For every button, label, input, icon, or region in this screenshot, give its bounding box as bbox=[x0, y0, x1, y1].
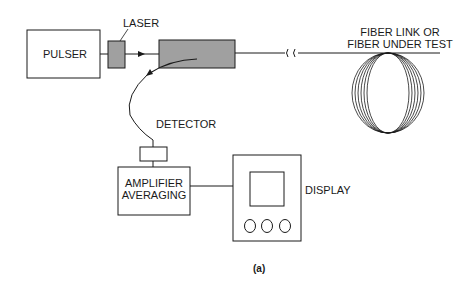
laser-box bbox=[108, 41, 125, 68]
break-icon bbox=[287, 49, 296, 57]
detector-fiber bbox=[129, 74, 153, 147]
detector-box bbox=[140, 147, 167, 161]
display-box bbox=[233, 155, 301, 241]
pulser-label: PULSER bbox=[43, 48, 87, 61]
detector-label: DETECTOR bbox=[156, 118, 216, 131]
knob-icon bbox=[262, 220, 273, 233]
figure-caption: (a) bbox=[253, 262, 265, 275]
knob-icon bbox=[280, 220, 291, 233]
laser-label: LASER bbox=[123, 17, 159, 30]
laser-leader-line bbox=[120, 29, 128, 41]
display-screen bbox=[250, 172, 284, 206]
arrow-icon bbox=[138, 51, 145, 57]
knob-icon bbox=[245, 220, 256, 233]
fiber-coil bbox=[352, 53, 424, 133]
display-label: DISPLAY bbox=[305, 184, 351, 197]
amplifier-label-line2: AVERAGING bbox=[118, 189, 190, 202]
fiber-label-line2: FIBER UNDER TEST bbox=[340, 38, 460, 51]
